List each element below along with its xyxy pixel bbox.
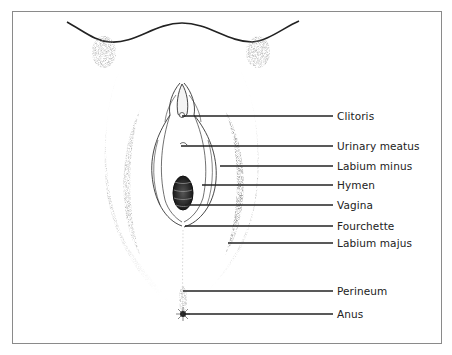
label-fourchette: Fourchette [337,220,394,232]
anatomy-illustration [0,0,452,355]
stipple-shading [92,36,270,314]
label-clitoris: Clitoris [337,110,374,122]
label-labium-majus: Labium majus [337,237,412,249]
label-labium-minus: Labium minus [337,160,412,172]
label-perineum: Perineum [337,285,387,297]
label-vagina: Vagina [337,199,373,211]
label-urinary-meatus: Urinary meatus [337,140,420,152]
label-anus: Anus [337,308,363,320]
leader-lines [181,116,333,314]
clitoris-shape [177,84,188,117]
label-hymen: Hymen [337,179,375,191]
